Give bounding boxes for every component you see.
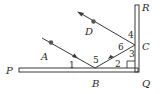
- reflection-diagram: P B Q R C A D 1 5 2 3 6 4: [0, 0, 160, 94]
- angle-4: 4: [128, 30, 134, 40]
- mirror-qr: [135, 5, 139, 72]
- point-d-dot: [91, 19, 95, 23]
- label-q: Q: [142, 78, 150, 89]
- arrow-icon: [77, 12, 84, 17]
- angle-3: 3: [129, 49, 135, 59]
- label-r: R: [141, 2, 150, 13]
- angle-2: 2: [115, 59, 121, 69]
- angle-6: 6: [118, 42, 124, 52]
- label-d: D: [84, 26, 93, 37]
- label-c: C: [142, 41, 150, 52]
- arrow-icon: [72, 54, 78, 59]
- angle-1: 1: [69, 60, 75, 70]
- label-b: B: [91, 78, 99, 89]
- point-a-dot: [49, 40, 53, 44]
- right-angle-mark: [127, 61, 135, 68]
- label-p: P: [5, 65, 13, 76]
- label-a: A: [40, 51, 48, 62]
- angle-5: 5: [93, 55, 99, 65]
